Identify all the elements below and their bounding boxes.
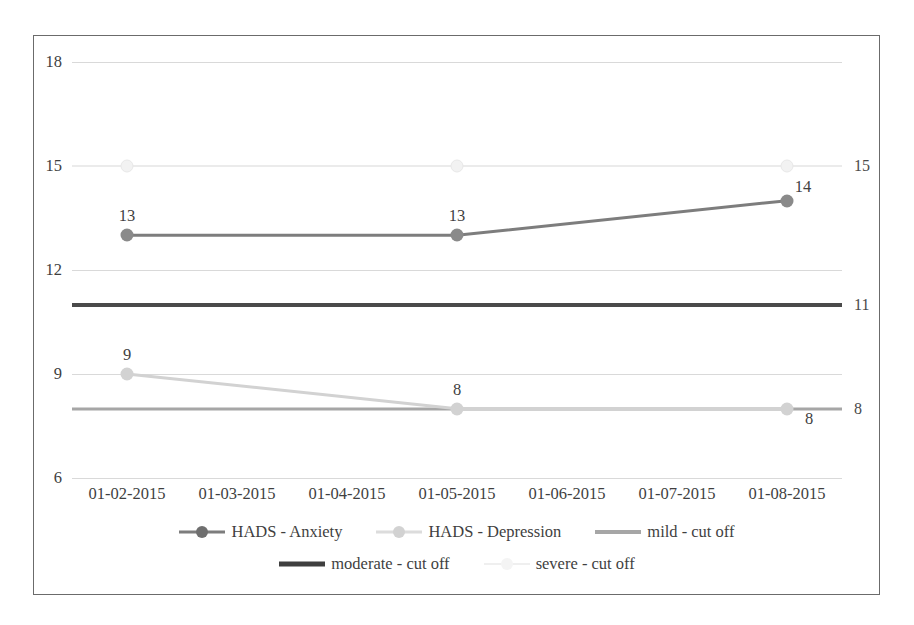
data-point-label: 14 <box>795 177 812 197</box>
x-axis-tick-label: 01-06-2015 <box>529 484 606 504</box>
legend-item-hads-depression[interactable]: HADS - Depression <box>376 522 561 542</box>
data-point-marker <box>451 229 464 242</box>
legend-label: mild - cut off <box>647 522 734 542</box>
data-point-marker <box>451 402 464 415</box>
data-point-label: 8 <box>805 409 813 429</box>
legend-item-hads-anxiety[interactable]: HADS - Anxiety <box>179 522 342 542</box>
legend-label: HADS - Depression <box>428 522 561 542</box>
plot-area: 18151296 15118 131314988 <box>72 62 842 478</box>
data-point-label: 13 <box>449 206 466 226</box>
data-point-label: 9 <box>123 345 131 365</box>
x-axis: 01-02-201501-03-201501-04-201501-05-2015… <box>72 484 842 510</box>
legend-key-icon <box>595 525 641 539</box>
data-point-label: 13 <box>119 206 136 226</box>
series-lines <box>72 62 842 478</box>
chart-legend: HADS - AnxietyHADS - Depressionmild - cu… <box>72 522 842 586</box>
data-point-marker <box>781 402 794 415</box>
x-axis-tick-label: 01-02-2015 <box>89 484 166 504</box>
legend-label: moderate - cut off <box>331 554 449 574</box>
legend-item-mild-cut-off[interactable]: mild - cut off <box>595 522 734 542</box>
x-axis-tick-label: 01-05-2015 <box>419 484 496 504</box>
y-axis-tick-label: 9 <box>54 364 62 384</box>
reference-line-label-moderate: 11 <box>854 296 869 314</box>
legend-key-icon <box>376 525 422 539</box>
x-axis-tick-label: 01-04-2015 <box>309 484 386 504</box>
reference-line-label-severe: 15 <box>854 157 870 175</box>
legend-item-severe-cut-off[interactable]: severe - cut off <box>484 554 635 574</box>
y-axis-tick-label: 12 <box>46 260 63 280</box>
y-axis-tick-label: 6 <box>54 468 62 488</box>
data-point-marker <box>121 229 134 242</box>
data-point-marker <box>121 368 134 381</box>
x-axis-tick-label: 01-03-2015 <box>199 484 276 504</box>
reference-line-label-mild: 8 <box>854 400 862 418</box>
data-point-label: 8 <box>453 380 461 400</box>
x-axis-tick-label: 01-08-2015 <box>749 484 826 504</box>
legend-key-icon <box>279 557 325 571</box>
legend-label: severe - cut off <box>536 554 635 574</box>
legend-item-moderate-cut-off[interactable]: moderate - cut off <box>279 554 449 574</box>
chart-frame: 18151296 15118 131314988 01-02-201501-03… <box>33 35 880 595</box>
legend-row: moderate - cut offsevere - cut off <box>72 554 842 574</box>
data-point-marker <box>781 194 794 207</box>
legend-row: HADS - AnxietyHADS - Depressionmild - cu… <box>72 522 842 542</box>
y-axis-tick-label: 15 <box>46 156 63 176</box>
legend-key-icon <box>484 557 530 571</box>
legend-key-icon <box>179 525 225 539</box>
legend-label: HADS - Anxiety <box>231 522 342 542</box>
y-axis-tick-label: 18 <box>46 52 63 72</box>
gridline-y-6: 6 <box>72 478 842 479</box>
x-axis-tick-label: 01-07-2015 <box>639 484 716 504</box>
